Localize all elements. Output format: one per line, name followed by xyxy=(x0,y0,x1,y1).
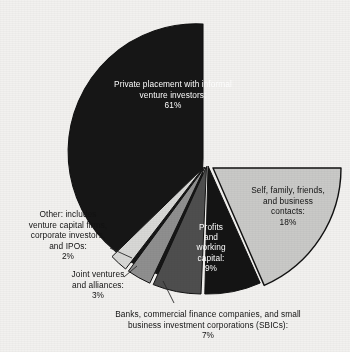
slice-label-banks-sbics: Banks, commercial finance companies, and… xyxy=(96,309,320,341)
slice-label-private-placement: Private placement with informal venture … xyxy=(88,79,258,111)
slice-label-joint-ventures: Joint ventures and alliances: 3% xyxy=(44,269,152,301)
slice-label-profits-working-capital: Profits and working capital: 9% xyxy=(185,222,237,273)
slice-label-self-family-friends: Self, family, friends, and business cont… xyxy=(236,185,340,227)
slice-label-other-vc-ipo: Other: includes venture capital firms, c… xyxy=(6,209,130,262)
pie-chart-figure: Private placement with informal venture … xyxy=(0,0,350,352)
